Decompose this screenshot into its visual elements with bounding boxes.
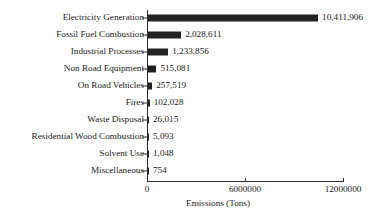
y-axis-tick — [142, 86, 147, 87]
x-axis-tick — [343, 178, 344, 182]
bar-row: Waste Disposal26,015 — [0, 112, 383, 128]
category-label: Fossil Fuel Combustion — [56, 31, 144, 40]
y-axis-tick — [142, 171, 147, 172]
bar-value-label: 26,015 — [153, 116, 178, 125]
bar-row: Fossil Fuel Combustion2,028,611 — [0, 27, 383, 43]
bar — [148, 15, 318, 22]
x-axis-tick-label: 6000000 — [229, 185, 261, 194]
bar-row: Fires102,028 — [0, 95, 383, 111]
y-axis-tick — [142, 35, 147, 36]
category-label: Industrial Processes — [71, 48, 144, 57]
y-axis-tick — [142, 52, 147, 53]
y-axis-tick — [142, 103, 147, 104]
bar-value-label: 10,411,906 — [322, 14, 363, 23]
bar — [148, 32, 181, 39]
bar-value-label: 2,028,611 — [185, 31, 221, 40]
x-axis-tick — [147, 178, 148, 182]
x-axis-tick-label: 12000000 — [325, 185, 362, 194]
y-axis-tick — [142, 120, 147, 121]
bar-row: Electricity Generation10,411,906 — [0, 10, 383, 26]
x-axis-title-label: Emissions (Tons) — [186, 199, 250, 208]
bar-row: Miscellaneous754 — [0, 163, 383, 179]
bar-value-label: 754 — [153, 167, 167, 176]
x-axis-tick — [245, 178, 246, 182]
bar — [148, 49, 168, 56]
category-label: Waste Disposal — [87, 116, 144, 125]
y-axis-tick — [142, 154, 147, 155]
bar — [148, 117, 149, 124]
bar-value-label: 1,233,856 — [172, 48, 209, 57]
emissions-bar-chart: Electricity Generation10,411,906Fossil F… — [0, 0, 383, 217]
bar — [148, 134, 149, 141]
category-label: On Road Vehicles — [78, 82, 144, 91]
y-axis-tick — [142, 69, 147, 70]
bar — [148, 83, 152, 90]
category-label: Residential Wood Combustion — [32, 133, 144, 142]
bar-row: Residential Wood Combustion5,093 — [0, 129, 383, 145]
bar-value-label: 1,048 — [153, 150, 174, 159]
category-label: Electricity Generation — [63, 14, 144, 23]
bar — [148, 168, 149, 175]
bar — [148, 100, 150, 107]
category-label: Solvent Use — [99, 150, 144, 159]
bar-row: Solvent Use1,048 — [0, 146, 383, 162]
y-axis-tick — [142, 18, 147, 19]
bar — [148, 66, 156, 73]
bar-row: Industrial Processes1,233,856 — [0, 44, 383, 60]
bar — [148, 151, 149, 158]
category-label: Miscellaneous — [91, 167, 144, 176]
category-label: Non Road Equipment — [64, 65, 144, 74]
x-axis-title: Emissions (Tons) — [0, 199, 383, 208]
bar-value-label: 5,093 — [153, 133, 174, 142]
x-axis-tick-label: 0 — [145, 185, 150, 194]
bar-value-label: 102,028 — [154, 99, 184, 108]
bar-row: On Road Vehicles257,519 — [0, 78, 383, 94]
y-axis-tick — [142, 137, 147, 138]
bar-value-label: 515,081 — [160, 65, 190, 74]
bar-row: Non Road Equipment515,081 — [0, 61, 383, 77]
bar-value-label: 257,519 — [156, 82, 186, 91]
